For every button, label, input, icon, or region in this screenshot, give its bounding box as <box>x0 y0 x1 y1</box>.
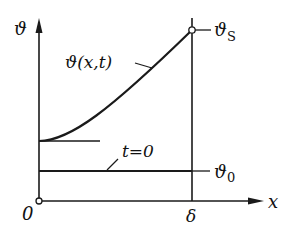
temperature-curve <box>39 30 192 141</box>
origin-marker <box>36 198 42 204</box>
t0-leader <box>107 159 118 170</box>
curve-label-leader <box>135 63 152 68</box>
x-axis-label: x <box>268 191 278 212</box>
temperature-diagram: ϑ x 0 δ ϑ0 t=0 ϑS ϑ(x,t) <box>0 0 282 239</box>
origin-label: 0 <box>22 203 33 224</box>
surface-temp-label: ϑS <box>214 19 236 44</box>
y-axis-arrow-icon <box>36 18 43 33</box>
curve-label: ϑ(x,t) <box>65 52 112 72</box>
delta-label: δ <box>186 206 196 226</box>
surface-temp-marker <box>189 27 195 33</box>
t0-label: t=0 <box>122 141 154 161</box>
x-axis-arrow-icon <box>248 198 264 205</box>
y-axis-label: ϑ <box>14 18 27 39</box>
initial-temp-label: ϑ0 <box>214 161 235 185</box>
